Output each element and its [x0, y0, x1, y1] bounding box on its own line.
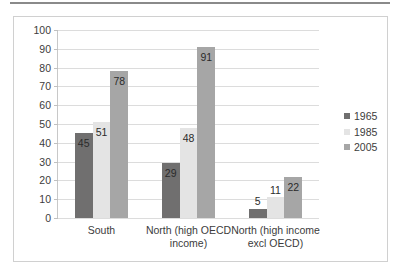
bar[interactable]: 91 — [197, 47, 215, 218]
y-axis-tick-label: 40 — [39, 138, 51, 149]
y-axis-tick-label: 90 — [39, 44, 51, 55]
bar-value-label: 11 — [270, 185, 281, 196]
legend-item[interactable]: 2005 — [344, 142, 392, 153]
legend-swatch-icon — [344, 129, 350, 135]
bar-value-label: 48 — [183, 133, 195, 144]
bar[interactable]: 51 — [93, 122, 111, 218]
legend-label: 1965 — [354, 111, 377, 122]
bars-layer: 455178South294891North (high OECD income… — [58, 30, 319, 218]
gridline — [58, 218, 319, 219]
legend-label: 1985 — [354, 127, 377, 138]
y-axis-tick-label: 50 — [39, 119, 51, 130]
bar[interactable]: 45 — [75, 133, 93, 218]
y-axis-tick-label: 100 — [33, 25, 51, 36]
bar[interactable]: 29 — [162, 163, 180, 218]
bar-value-label: 91 — [200, 52, 212, 63]
plot-area: 0102030405060708090100 455178South294891… — [58, 30, 319, 218]
bar-group: 294891North (high OECD income) — [162, 30, 216, 218]
legend-label: 2005 — [354, 142, 377, 153]
bar-value-label: 29 — [165, 168, 177, 179]
legend-item[interactable]: 1985 — [344, 127, 392, 138]
bar-group: 455178South — [75, 30, 129, 218]
y-axis-tick-label: 60 — [39, 100, 51, 111]
legend-swatch-icon — [344, 144, 350, 150]
bar-value-label: 78 — [113, 76, 125, 87]
bar[interactable]: 22 — [284, 177, 302, 218]
chart-container: 0102030405060708090100 455178South294891… — [13, 16, 388, 262]
bar[interactable]: 48 — [180, 128, 198, 218]
bar-value-label: 22 — [287, 182, 299, 193]
y-axis-tick-label: 10 — [39, 194, 51, 205]
chart-legend: 196519852005 — [344, 111, 392, 158]
bar[interactable]: 5 — [249, 209, 267, 218]
bar[interactable]: 11 — [267, 197, 285, 218]
bar-group: 51122North (high income excl OECD) — [249, 30, 303, 218]
bar-value-label: 5 — [255, 196, 261, 207]
x-axis-category-label: North (high income excl OECD) — [223, 224, 327, 250]
bar-value-label: 51 — [96, 127, 108, 138]
y-axis-tick-label: 80 — [39, 62, 51, 73]
y-axis-tick-label: 20 — [39, 175, 51, 186]
y-axis-tick-label: 0 — [45, 213, 51, 224]
bar-value-label: 45 — [78, 138, 90, 149]
y-axis-tick — [54, 218, 58, 219]
top-divider-rule — [10, 2, 390, 4]
legend-item[interactable]: 1965 — [344, 111, 392, 122]
bar[interactable]: 78 — [110, 71, 128, 218]
y-axis-tick-label: 70 — [39, 81, 51, 92]
legend-swatch-icon — [344, 113, 350, 119]
y-axis-tick-label: 30 — [39, 156, 51, 167]
